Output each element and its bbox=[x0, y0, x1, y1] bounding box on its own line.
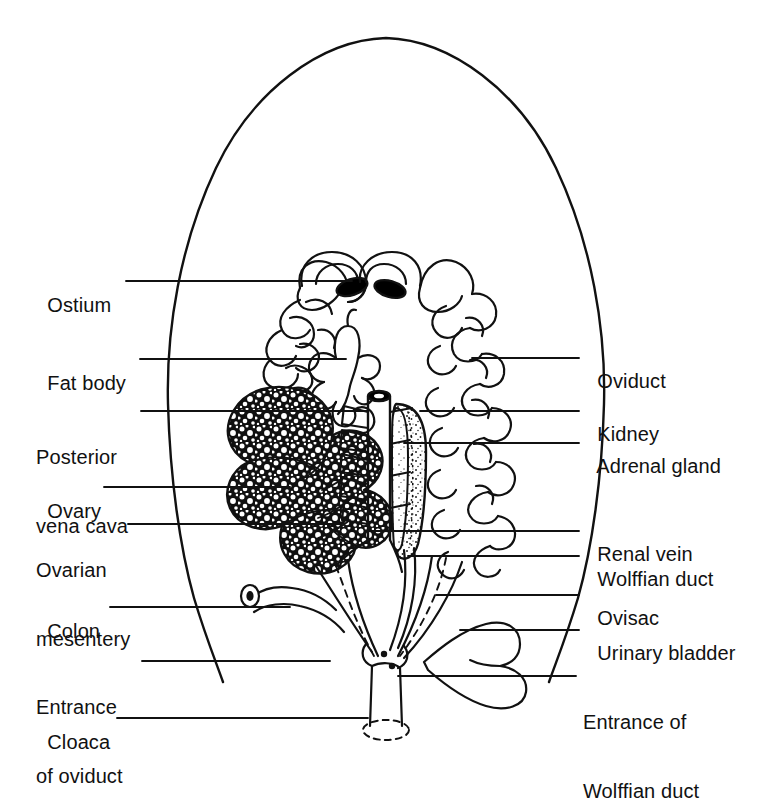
label-entrance-of-wolffian-duct: Entrance of Wolffian duct bbox=[583, 665, 699, 802]
label-oviduct-line1: Oviduct bbox=[597, 370, 666, 392]
label-fat-body-line1: Fat body bbox=[47, 372, 126, 394]
cloaca bbox=[363, 663, 409, 740]
label-colon: Colon bbox=[36, 597, 100, 643]
ostium-right-slit bbox=[372, 277, 407, 301]
label-cloaca: Cloaca bbox=[36, 708, 110, 754]
label-adrenal-gland-line1: Adrenal gland bbox=[596, 455, 721, 477]
label-ostium-line1: Ostium bbox=[47, 294, 111, 316]
body-outline bbox=[168, 38, 604, 682]
urinary-bladder bbox=[424, 623, 526, 709]
label-ostium: Ostium bbox=[36, 271, 111, 317]
colon bbox=[241, 585, 344, 632]
label-entrance-of-wolffian-duct-line2: Wolffian duct bbox=[583, 780, 699, 802]
label-fat-body: Fat body bbox=[36, 349, 126, 395]
label-urinary-bladder-line1: Urinary bladder bbox=[597, 642, 735, 664]
label-adrenal-gland: Adrenal gland bbox=[586, 432, 721, 478]
wolffian-duct bbox=[390, 548, 415, 650]
label-cloaca-line1: Cloaca bbox=[47, 731, 110, 753]
ostium-left-slit bbox=[334, 274, 369, 299]
label-ovarian-mesentery-line1: Ovarian bbox=[36, 559, 130, 582]
label-posterior-vena-cava-line1: Posterior bbox=[36, 446, 128, 469]
label-oviduct: Oviduct bbox=[586, 347, 666, 393]
label-urinary-bladder: Urinary bladder bbox=[586, 619, 736, 665]
label-entrance-of-wolffian-duct-line1: Entrance of bbox=[583, 711, 699, 734]
label-entrance-of-oviduct-line2: of oviduct bbox=[36, 765, 123, 788]
label-colon-line1: Colon bbox=[47, 620, 100, 642]
